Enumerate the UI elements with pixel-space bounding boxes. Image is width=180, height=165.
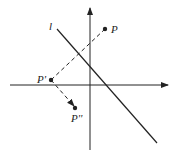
point-p2 — [73, 106, 77, 110]
line-l-label: l — [49, 20, 52, 32]
point-p2-label: P'' — [70, 112, 83, 124]
point-p — [103, 27, 107, 31]
diagram-canvas: l P P' P'' — [0, 0, 180, 165]
dashed-segment-p1-to-p2 — [51, 80, 74, 106]
line-l — [57, 29, 157, 143]
point-p1-label: P' — [36, 73, 47, 85]
point-p-label: P — [110, 23, 118, 35]
point-p1 — [49, 78, 53, 82]
dashed-segment-p-to-p1 — [51, 29, 105, 80]
